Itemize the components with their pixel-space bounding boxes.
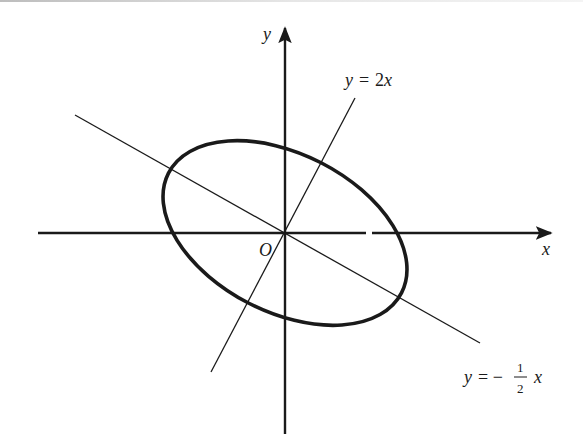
x-axis-label: x [541,239,550,259]
label-y-equals-neg-half-x: y = − 1 2 x [462,360,542,396]
label-y-equals-2x: y = 2x [343,70,392,90]
svg-text:x: x [533,367,542,387]
svg-text:1: 1 [517,360,524,375]
svg-text:=: = [359,70,369,90]
svg-text:2: 2 [517,381,524,396]
line-y-equals-neg-half-x [75,115,480,343]
svg-text:= −: = − [478,367,503,387]
origin-label: O [259,240,272,260]
ellipse-diagram: y x O y = 2x y = − 1 2 x [0,0,583,434]
svg-text:2x: 2x [375,70,392,90]
svg-text:y: y [343,70,353,90]
svg-text:y: y [462,367,472,387]
y-axis-label: y [261,24,271,44]
